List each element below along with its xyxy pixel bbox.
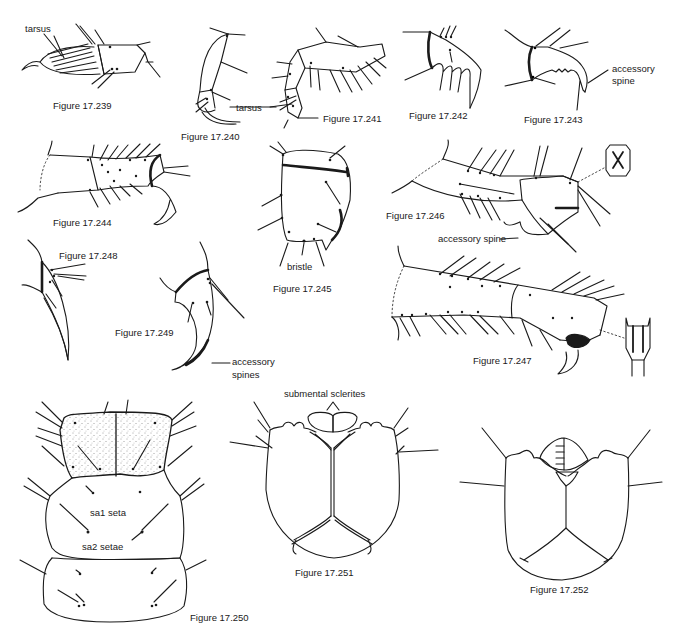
caption-17-246: Figure 17.246: [386, 211, 445, 221]
label-accessory-spine-246: accessory spine: [438, 234, 506, 244]
label-accessory-249: accessory: [232, 357, 275, 367]
caption-17-250: Figure 17.250: [190, 613, 249, 623]
label-tarsus-239: tarsus: [25, 24, 51, 34]
caption-17-239: Figure 17.239: [53, 101, 112, 111]
caption-17-252: Figure 17.252: [530, 585, 589, 595]
label-accessory-243: accessory: [612, 64, 655, 74]
label-spines-249: spines: [232, 370, 259, 380]
figure-17-245-drawing: [258, 142, 351, 266]
figure-17-249-drawing: [160, 242, 244, 370]
figure-17-251-drawing: [230, 402, 438, 558]
figure-17-246-drawing: [392, 140, 630, 252]
figure-17-252-drawing: [460, 428, 662, 580]
figure-17-243-drawing: [505, 28, 608, 110]
label-sa1-seta: sa1 seta: [90, 508, 126, 518]
label-bristle: bristle: [287, 262, 312, 272]
caption-17-251: Figure 17.251: [295, 568, 354, 578]
caption-17-245: Figure 17.245: [273, 284, 332, 294]
caption-17-241: Figure 17.241: [323, 114, 382, 124]
label-tarsus-240-241: tarsus: [236, 103, 262, 113]
caption-17-240: Figure 17.240: [181, 132, 240, 142]
caption-17-248: Figure 17.248: [59, 251, 118, 261]
caption-17-247: Figure 17.247: [473, 356, 532, 366]
label-submental-sclerites: submental sclerites: [284, 389, 365, 399]
figure-17-244-drawing: [18, 141, 190, 225]
caption-17-249: Figure 17.249: [115, 328, 174, 338]
label-spine-243: spine: [612, 76, 635, 86]
label-sa2-setae: sa2 setae: [82, 542, 123, 552]
caption-17-243: Figure 17.243: [524, 115, 583, 125]
figure-17-242-drawing: [403, 26, 481, 108]
caption-17-244: Figure 17.244: [53, 218, 112, 228]
caption-17-242: Figure 17.242: [409, 111, 468, 121]
